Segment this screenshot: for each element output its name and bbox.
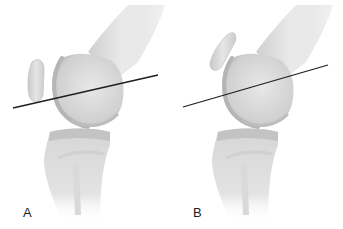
knee-diagram-figure [0,0,343,229]
panel-label-a: A [23,205,32,220]
panel-b [183,5,333,222]
panel-label-b: B [193,205,202,220]
panel-a [13,5,165,222]
patella-a [28,60,44,102]
femoral-condyle-b [222,54,293,127]
